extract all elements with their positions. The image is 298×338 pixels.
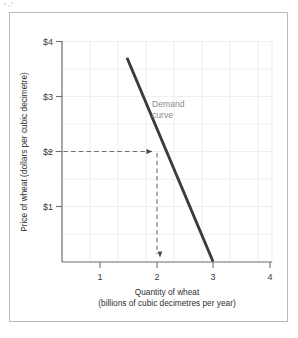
x-tick-label-2: 2	[154, 272, 159, 282]
x-axis-ticks	[100, 262, 270, 268]
demand-curve-label: Demand curve	[152, 99, 185, 120]
x-axis-title: Quantity of wheat	[135, 287, 200, 297]
y-axis-title: Price of wheat (dollars per cubic decime…	[19, 72, 29, 232]
y-tick-label-1: $1	[43, 202, 53, 212]
demand-curve-label-line1: Demand	[152, 99, 185, 109]
y-axis-ticks	[56, 42, 62, 207]
x-tick-label-4: 4	[267, 272, 272, 282]
y-tick-label-4: $4	[43, 37, 53, 47]
demand-curve-label-line2: curve	[152, 110, 173, 120]
x-axis-tick-labels: 1 2 3 4	[97, 272, 272, 282]
x-tick-label-3: 3	[210, 272, 215, 282]
demand-curve-line	[127, 58, 213, 262]
demand-curve-chart: $4 $3 $2 $1 1 2 3 4 Demand curve Price o…	[0, 0, 298, 338]
x-axis-subtitle: (billions of cubic decimetres per year)	[98, 298, 236, 308]
y-tick-label-3: $3	[43, 92, 53, 102]
y-axis-tick-labels: $4 $3 $2 $1	[43, 37, 53, 212]
x-tick-label-1: 1	[97, 272, 102, 282]
